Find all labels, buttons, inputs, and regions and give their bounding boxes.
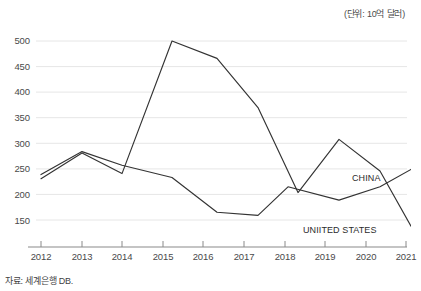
xtick-label-2014: 2014 [105, 251, 139, 262]
ytick-label-300: 300 [4, 138, 30, 149]
ytick-label-500: 500 [4, 35, 30, 46]
xtick-label-2018: 2018 [268, 251, 302, 262]
series-label-china: CHINA [352, 173, 381, 183]
xtick-label-2016: 2016 [186, 251, 220, 262]
xtick-label-2012: 2012 [24, 251, 58, 262]
ytick-label-350: 350 [4, 112, 30, 123]
plot-area: 500 450 400 350 300 250 200 150 2012 201… [0, 25, 411, 255]
ytick-label-400: 400 [4, 86, 30, 97]
gridlines [36, 41, 407, 220]
ytick-label-450: 450 [4, 61, 30, 72]
xtick-label-2017: 2017 [227, 251, 261, 262]
x-axis [28, 241, 407, 247]
series-line-china [41, 41, 411, 226]
xtick-label-2021: 2021 [389, 251, 421, 262]
xtick-label-2020: 2020 [349, 251, 383, 262]
ytick-label-150: 150 [4, 215, 30, 226]
ytick-label-200: 200 [4, 189, 30, 200]
ytick-label-250: 250 [4, 163, 30, 174]
xtick-label-2013: 2013 [65, 251, 99, 262]
xtick-label-2015: 2015 [146, 251, 180, 262]
unit-note: (단위: 10억 달러) [344, 7, 405, 20]
source-note: 자료: 세계은행 DB. [5, 274, 73, 287]
series-label-united-states: UNIITED STATES [303, 225, 377, 235]
chart-svg [0, 25, 411, 255]
xtick-label-2019: 2019 [308, 251, 342, 262]
